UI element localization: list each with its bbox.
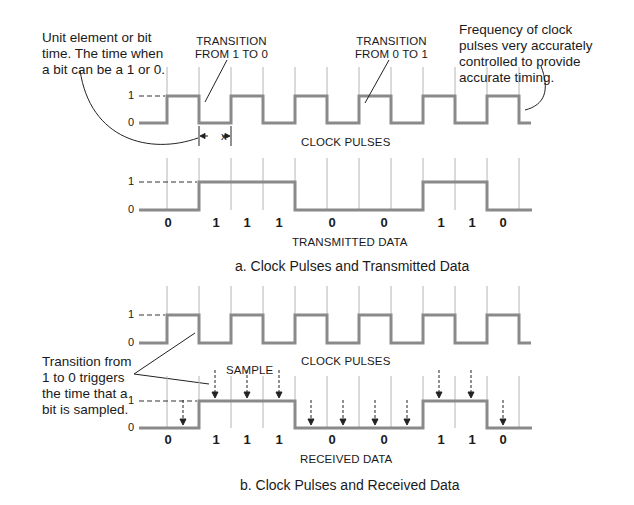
clock-b-level-0: 0 bbox=[128, 336, 134, 348]
sample-label: SAMPLE bbox=[226, 364, 273, 377]
transition-1-0-label: TRANSITION FROM 1 TO 0 bbox=[195, 35, 268, 61]
trigger-note: Transition from 1 to 0 triggers the time… bbox=[42, 354, 134, 418]
data-a-level-0: 0 bbox=[128, 203, 134, 215]
tx-bit-5: 0 bbox=[328, 215, 335, 230]
transmitted-data-waveform bbox=[139, 182, 532, 210]
tx-bit-9: 0 bbox=[499, 215, 506, 230]
transition-0-1-label: TRANSITION FROM 0 TO 1 bbox=[355, 35, 428, 61]
data-a-gridlines bbox=[167, 158, 519, 210]
tx-bit-2: 1 bbox=[212, 215, 219, 230]
clock-b-waveform bbox=[139, 315, 531, 343]
transition-1-0-line1: TRANSITION bbox=[195, 35, 268, 48]
transition-0-1-line1: TRANSITION bbox=[355, 35, 428, 48]
caption-a: a. Clock Pulses and Transmitted Data bbox=[235, 258, 469, 274]
sample-arrows bbox=[180, 370, 506, 425]
data-a-level-1: 1 bbox=[128, 175, 134, 187]
tx-bit-6: 0 bbox=[380, 215, 387, 230]
tx-bit-8: 1 bbox=[468, 215, 475, 230]
rx-bit-9: 0 bbox=[499, 432, 506, 447]
clock-a-waveform bbox=[139, 96, 531, 123]
tx-bit-1: 0 bbox=[164, 215, 171, 230]
tx-bit-4: 1 bbox=[275, 215, 282, 230]
clock-b-label: CLOCK PULSES bbox=[301, 355, 390, 368]
rx-bit-1: 0 bbox=[164, 432, 171, 447]
received-data-label: RECEIVED DATA bbox=[300, 453, 392, 466]
tx-bit-3: 1 bbox=[243, 215, 250, 230]
clock-a-label: CLOCK PULSES bbox=[301, 136, 390, 149]
rx-bit-5: 0 bbox=[328, 432, 335, 447]
frequency-note: Frequency of clock pulses very accuratel… bbox=[459, 22, 609, 86]
clock-b-gridlines bbox=[167, 286, 519, 343]
unit-element-note: Unit element or bit time. The time when … bbox=[42, 30, 166, 78]
trigger-leader-1 bbox=[134, 333, 195, 374]
transition-1-0-leader bbox=[205, 60, 227, 102]
rx-bit-6: 0 bbox=[380, 432, 387, 447]
received-data-waveform bbox=[139, 401, 532, 428]
clock-b-level-1: 1 bbox=[128, 308, 134, 320]
data-b-level-0: 0 bbox=[128, 421, 134, 433]
rx-bit-3: 1 bbox=[243, 432, 250, 447]
transition-1-0-line2: FROM 1 TO 0 bbox=[195, 48, 268, 61]
clock-a-level-0: 0 bbox=[128, 116, 134, 128]
clock-a-level-1: 1 bbox=[128, 89, 134, 101]
rx-bit-2: 1 bbox=[212, 432, 219, 447]
trigger-leader-2 bbox=[134, 374, 209, 384]
tx-bit-7: 1 bbox=[437, 215, 444, 230]
caption-b: b. Clock Pulses and Received Data bbox=[240, 477, 459, 493]
rx-bit-7: 1 bbox=[437, 432, 444, 447]
transmitted-data-label: TRANSMITTED DATA bbox=[292, 236, 408, 249]
transition-0-1-line2: FROM 0 TO 1 bbox=[355, 48, 428, 61]
rx-bit-8: 1 bbox=[468, 432, 475, 447]
bit-width-label: x bbox=[221, 130, 227, 142]
unit-element-leader bbox=[80, 70, 198, 144]
rx-bit-4: 1 bbox=[275, 432, 282, 447]
